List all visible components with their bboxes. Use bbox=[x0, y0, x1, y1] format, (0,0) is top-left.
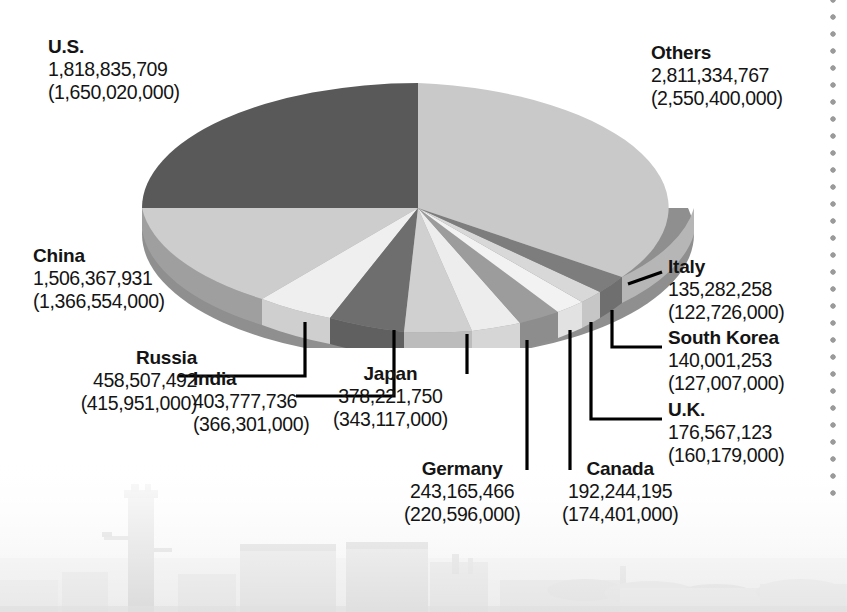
callout-uk-name: U.K. bbox=[668, 399, 784, 421]
pie-slice-japan bbox=[404, 208, 472, 333]
callout-south-korea-name: South Korea bbox=[668, 327, 784, 349]
callout-south-korea-value: 140,001,253 bbox=[668, 349, 784, 372]
callout-us-name: U.S. bbox=[48, 36, 180, 58]
pie-slice-germany bbox=[418, 208, 520, 331]
figure-canvas: U.S. 1,818,835,709 (1,650,020,000) Other… bbox=[0, 0, 847, 612]
callout-canada-value: 192,244,195 bbox=[562, 480, 678, 503]
callout-canada-secondary: (174,401,000) bbox=[562, 503, 678, 526]
callout-canada-name: Canada bbox=[562, 458, 678, 480]
pie-slice-italy bbox=[418, 208, 622, 292]
callout-us-secondary: (1,650,020,000) bbox=[48, 81, 180, 104]
callout-south-korea: South Korea 140,001,253 (127,007,000) bbox=[668, 327, 784, 394]
pie-slice-uk bbox=[418, 208, 582, 312]
callout-uk-secondary: (160,179,000) bbox=[668, 444, 784, 467]
callout-others-name: Others bbox=[651, 42, 783, 64]
callout-us: U.S. 1,818,835,709 (1,650,020,000) bbox=[48, 36, 180, 103]
callout-germany-name: Germany bbox=[404, 458, 520, 480]
callout-japan-value: 378,221,750 bbox=[333, 385, 448, 408]
callout-others-value: 2,811,334,767 bbox=[651, 64, 783, 87]
callout-others-secondary: (2,550,400,000) bbox=[651, 87, 783, 110]
pie-slice-canada bbox=[418, 208, 558, 323]
leader-line-italy bbox=[628, 272, 662, 284]
callout-italy-secondary: (122,726,000) bbox=[668, 301, 784, 324]
callout-germany-secondary: (220,596,000) bbox=[404, 503, 520, 526]
callout-us-value: 1,818,835,709 bbox=[48, 58, 180, 81]
callout-russia-value: 458,507,492 bbox=[32, 369, 197, 392]
callout-germany-value: 243,165,466 bbox=[404, 480, 520, 503]
callout-japan-secondary: (343,117,000) bbox=[333, 408, 448, 431]
callout-canada: Canada 192,244,195 (174,401,000) bbox=[562, 458, 678, 525]
pie-side-wall bbox=[142, 109, 694, 359]
callout-germany: Germany 243,165,466 (220,596,000) bbox=[404, 458, 520, 525]
callout-italy-value: 135,282,258 bbox=[668, 278, 784, 301]
leader-line-uk bbox=[591, 322, 662, 419]
callout-russia-secondary: (415,951,000) bbox=[32, 392, 197, 415]
callout-china-secondary: (1,366,554,000) bbox=[33, 290, 165, 313]
pie-slice-others bbox=[418, 83, 669, 277]
callout-others: Others 2,811,334,767 (2,550,400,000) bbox=[651, 42, 783, 109]
callout-uk: U.K. 176,567,123 (160,179,000) bbox=[668, 399, 784, 466]
callout-italy: Italy 135,282,258 (122,726,000) bbox=[668, 256, 784, 323]
callout-south-korea-secondary: (127,007,000) bbox=[668, 372, 784, 395]
pie-slice-south-korea bbox=[418, 208, 600, 302]
callout-japan-name: Japan bbox=[333, 363, 448, 385]
callout-india-name: India bbox=[193, 368, 309, 390]
callout-uk-value: 176,567,123 bbox=[668, 421, 784, 444]
dotted-rule bbox=[829, 0, 837, 496]
pie-slice-russia bbox=[262, 208, 418, 318]
pie-slice-china bbox=[142, 208, 418, 299]
callout-china-name: China bbox=[33, 245, 165, 267]
pie-slice-india bbox=[330, 208, 418, 332]
callout-china: China 1,506,367,931 (1,366,554,000) bbox=[33, 245, 165, 312]
callout-japan: Japan 378,221,750 (343,117,000) bbox=[333, 363, 448, 430]
leader-line-south-korea bbox=[612, 310, 662, 347]
pie-slice-us bbox=[142, 83, 418, 208]
callout-india-secondary: (366,301,000) bbox=[193, 413, 309, 436]
callout-italy-name: Italy bbox=[668, 256, 784, 278]
callout-india: India 403,777,736 (366,301,000) bbox=[193, 368, 309, 435]
callout-india-value: 403,777,736 bbox=[193, 390, 309, 413]
pie-top-face bbox=[142, 83, 669, 333]
callout-russia: Russia 458,507,492 (415,951,000) bbox=[32, 347, 197, 414]
callout-russia-name: Russia bbox=[32, 347, 197, 369]
callout-china-value: 1,506,367,931 bbox=[33, 267, 165, 290]
